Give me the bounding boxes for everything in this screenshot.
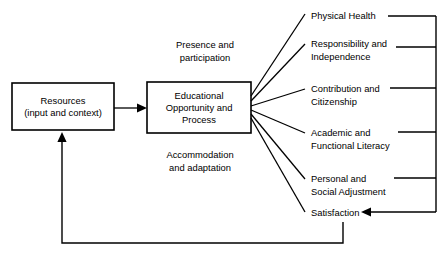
feedback-arrow-head xyxy=(57,132,66,142)
outcome-label-personal-and-social-adjustment: Personal andSocial Adjustment xyxy=(311,173,386,197)
outcome-label-contribution-and-citizenship: Contribution andCitizenship xyxy=(311,83,380,107)
satisfaction-arrow-head xyxy=(361,207,371,216)
outcome-label-physical-health: Physical Health xyxy=(311,10,376,21)
side-label-accommodation-and-adaptation-line: and adaptation xyxy=(169,162,231,173)
outcome-label-contribution-and-citizenship-line: Contribution and xyxy=(311,83,380,94)
outcome-label-academic-and-functional-literacy: Academic andFunctional Literacy xyxy=(311,127,390,151)
resources-to-process-arrow-head xyxy=(137,103,147,112)
outcome-label-personal-and-social-adjustment-line: Personal and xyxy=(311,173,366,184)
outcome-label-responsibility-and-independence-line: Responsibility and xyxy=(311,38,387,49)
outcome-label-academic-and-functional-literacy-line: Academic and xyxy=(311,127,370,138)
fan-line-personal-and-social-adjustment xyxy=(251,114,305,179)
side-label-accommodation-and-adaptation-line: Accommodation xyxy=(166,149,233,160)
outcome-label-academic-and-functional-literacy-line: Functional Literacy xyxy=(311,140,390,151)
box-label-educational-opportunity-line: Process xyxy=(182,114,216,125)
outcome-label-satisfaction-line: Satisfaction xyxy=(311,207,359,218)
labels-layer: Resources(input and context)EducationalO… xyxy=(24,10,390,218)
fan-lines-layer xyxy=(251,14,305,212)
outcome-label-contribution-and-citizenship-line: Citizenship xyxy=(311,96,357,107)
outcome-label-responsibility-and-independence: Responsibility andIndependence xyxy=(311,38,387,62)
box-label-resources-line: (input and context) xyxy=(24,107,102,118)
side-label-presence-and-participation: Presence andparticipation xyxy=(176,39,234,63)
outcome-label-satisfaction: Satisfaction xyxy=(311,207,359,218)
diagram-canvas: Resources(input and context)EducationalO… xyxy=(0,0,447,253)
side-label-presence-and-participation-line: Presence and xyxy=(176,39,234,50)
fan-line-academic-and-functional-literacy xyxy=(251,110,305,133)
outcome-label-responsibility-and-independence-line: Independence xyxy=(311,51,370,62)
outcome-label-personal-and-social-adjustment-line: Social Adjustment xyxy=(311,186,386,197)
side-label-presence-and-participation-line: participation xyxy=(180,52,231,63)
box-label-educational-opportunity-line: Opportunity and xyxy=(166,102,233,113)
side-label-accommodation-and-adaptation: Accommodationand adaptation xyxy=(166,149,233,173)
fan-line-responsibility-and-independence xyxy=(251,44,305,101)
outcome-label-physical-health-line: Physical Health xyxy=(311,10,376,21)
fan-line-satisfaction xyxy=(251,118,305,212)
diagram-root: Resources(input and context)EducationalO… xyxy=(0,0,447,253)
fan-line-physical-health xyxy=(251,14,305,96)
box-label-educational-opportunity-line: Educational xyxy=(175,90,224,101)
box-label-resources-line: Resources xyxy=(41,95,86,106)
